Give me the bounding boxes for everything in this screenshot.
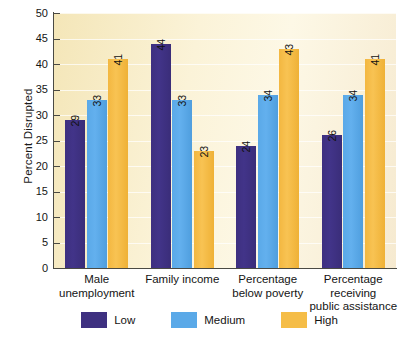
bar-medium-0: [87, 100, 107, 268]
chart-legend: LowMediumHigh: [0, 312, 419, 328]
y-tick-label: 10: [18, 212, 48, 223]
bar-value-label: 43: [284, 44, 295, 56]
legend-swatch-medium: [171, 312, 197, 328]
legend-swatch-high: [281, 312, 307, 328]
bar-value-label: 33: [177, 95, 188, 107]
y-tick-mark: [54, 115, 60, 116]
y-tick-label: 25: [18, 135, 48, 146]
bar-high-2: [279, 49, 299, 268]
y-tick-mark: [54, 217, 60, 218]
x-category-label-line: receiving: [293, 287, 413, 301]
bar-value-label: 34: [262, 89, 273, 101]
bar-low-2: [236, 146, 256, 268]
bar-high-0: [108, 59, 128, 268]
y-tick-mark: [54, 192, 60, 193]
y-tick-mark: [54, 166, 60, 167]
y-tick-mark: [54, 90, 60, 91]
y-tick-label: 40: [18, 59, 48, 70]
gridline: [54, 13, 396, 14]
bar-medium-2: [258, 95, 278, 268]
bar-value-label: 41: [369, 54, 380, 66]
bar-value-label: 41: [113, 54, 124, 66]
y-tick-label: 35: [18, 84, 48, 95]
bar-value-label: 23: [198, 146, 209, 158]
bar-high-3: [365, 59, 385, 268]
y-tick-label: 45: [18, 33, 48, 44]
legend-swatch-low: [81, 312, 107, 328]
x-category-label-line: unemployment: [37, 287, 157, 301]
gridline: [54, 90, 396, 91]
x-category-label-3: Percentagereceivingpublic assistance: [293, 273, 413, 314]
y-tick-mark: [54, 141, 60, 142]
y-tick-label: 20: [18, 161, 48, 172]
y-tick-label: 5: [18, 237, 48, 248]
y-tick-label: 15: [18, 186, 48, 197]
bar-value-label: 24: [241, 140, 252, 152]
legend-label-low: Low: [114, 314, 135, 326]
gridline: [54, 39, 396, 40]
bar-high-1: [194, 151, 214, 268]
bar-value-label: 29: [70, 115, 81, 127]
bar-value-label: 34: [348, 89, 359, 101]
y-tick-mark: [54, 13, 60, 14]
y-tick-label: 30: [18, 110, 48, 121]
y-tick-label: 0: [18, 263, 48, 274]
bar-low-0: [65, 120, 85, 268]
y-tick-mark: [54, 243, 60, 244]
x-axis-line: [53, 268, 397, 269]
legend-label-high: High: [314, 314, 338, 326]
y-tick-mark: [54, 268, 60, 269]
bar-low-3: [322, 135, 342, 268]
bar-low-1: [151, 44, 171, 268]
bar-value-label: 26: [326, 130, 337, 142]
x-category-label-line: Percentage: [293, 273, 413, 287]
legend-item-medium[interactable]: Medium: [171, 312, 281, 328]
y-tick-mark: [54, 39, 60, 40]
bar-medium-1: [172, 100, 192, 268]
bar-value-label: 44: [155, 38, 166, 50]
bar-value-label: 33: [91, 95, 102, 107]
y-tick-label: 50: [18, 8, 48, 19]
legend-item-high[interactable]: High: [281, 312, 338, 328]
legend-item-low[interactable]: Low: [81, 312, 171, 328]
y-tick-mark: [54, 64, 60, 65]
bar-medium-3: [343, 95, 363, 268]
gridline: [54, 64, 396, 65]
plot-area: 293341443323243443263441: [54, 13, 396, 268]
bar-chart-figure: Percent Disrupted 2933414433232434432634…: [0, 0, 419, 344]
legend-label-medium: Medium: [204, 314, 245, 326]
